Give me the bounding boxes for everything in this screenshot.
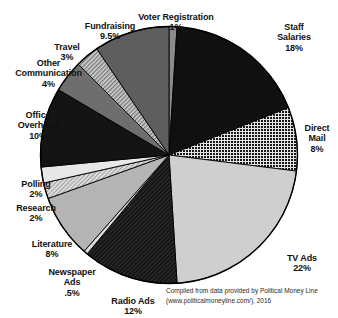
slice-label-staff-salaries-pct: 18%	[256, 43, 332, 54]
slice-label-direct-mail-name: Direct Mail	[305, 123, 330, 144]
slice-label-other-communication-name: Other Communication	[15, 58, 82, 79]
slice-label-newspaper-ads: Newspaper Ads .5%	[38, 256, 106, 309]
source-citation: Compiled from data provided by Political…	[166, 286, 338, 305]
slice-label-radio-ads-pct: 12%	[98, 306, 168, 317]
slice-label-other-communication: Other Communication 4%	[2, 47, 95, 100]
slice-label-office-overhead-pct: 10%	[2, 131, 74, 142]
slice-label-newspaper-ads-pct: .5%	[38, 288, 106, 299]
slice-label-tv-ads-pct: 22%	[272, 263, 332, 274]
slice-label-staff-salaries-name: Staff Salaries	[277, 22, 311, 43]
slice-label-office-overhead: Office Overhead 10%	[2, 99, 74, 152]
slice-label-tv-ads: TV Ads 22%	[272, 242, 332, 284]
slice-label-polling-name: Polling	[21, 179, 50, 189]
slice-label-staff-salaries: Staff Salaries 18%	[256, 11, 332, 64]
slice-label-office-overhead-name: Office Overhead	[18, 110, 59, 131]
slice-label-radio-ads-name: Radio Ads	[111, 296, 154, 306]
slice-label-literature-name: Literature	[32, 239, 73, 249]
slice-label-other-communication-pct: 4%	[2, 79, 95, 90]
slice-label-direct-mail-pct: 8%	[296, 144, 338, 155]
slice-label-research-pct: 2%	[6, 213, 66, 224]
slice-label-newspaper-ads-name: Newspaper Ads	[48, 267, 95, 288]
slice-label-fundraising-name: Fundraising	[85, 21, 135, 31]
slice-label-radio-ads: Radio Ads 12%	[98, 285, 168, 318]
slice-label-direct-mail: Direct Mail 8%	[296, 112, 338, 165]
slice-label-research-name: Research	[16, 203, 56, 213]
slice-label-tv-ads-name: TV Ads	[287, 253, 317, 263]
